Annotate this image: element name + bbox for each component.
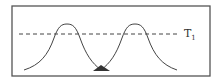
diagram-canvas: T1 xyxy=(0,0,221,83)
diagram-frame xyxy=(12,6,210,76)
